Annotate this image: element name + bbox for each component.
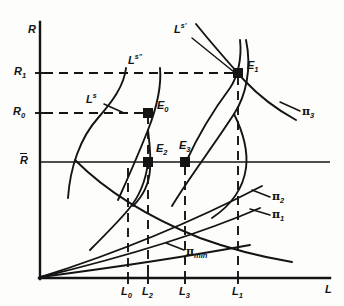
curve-label-Ls1-base: L xyxy=(174,23,181,35)
leader-pi2 xyxy=(252,190,270,197)
x-tick-label-L0-sub: 0 xyxy=(128,291,132,300)
y-tick-label-R1-main: R xyxy=(14,65,22,77)
curve-Ls1 xyxy=(172,40,248,206)
figure-canvas: R L R1 R0 R L0 L2 L3 L1 E0 E1 E2 E3 Ls L… xyxy=(0,0,344,306)
label-leader-lines xyxy=(104,38,300,250)
vertical-guides xyxy=(128,76,238,272)
curve-label-pimin-base: π xyxy=(186,245,194,258)
curve-label-pi3: π3 xyxy=(302,106,314,120)
point-label-E1: E1 xyxy=(247,60,259,74)
curve-label-pi2-sub: 2 xyxy=(280,196,284,205)
curve-label-pi3-base: π xyxy=(302,105,310,118)
point-label-E0: E0 xyxy=(157,100,169,114)
x-tick-label-L1-sub: 1 xyxy=(239,291,243,300)
curve-label-pimin: πmin xyxy=(186,246,207,260)
y-tick-label-R0-main: R xyxy=(13,105,21,117)
leader-pi3 xyxy=(280,102,300,111)
curve-Ls2 xyxy=(118,68,160,200)
overbar-rule xyxy=(20,153,27,154)
curve-pi-upper xyxy=(196,24,296,120)
marker-E1 xyxy=(233,68,243,78)
curve-pi-2-ray xyxy=(41,186,262,277)
curve-label-pimin-sub: min xyxy=(194,251,207,260)
y-tick-label-Rbar: R xyxy=(20,155,28,166)
y-tick-label-R1-sub: 1 xyxy=(22,71,26,80)
marker-E3 xyxy=(180,157,190,167)
y-tick-label-R0-sub: 0 xyxy=(21,111,25,120)
curve-label-Ls2-base: L xyxy=(128,54,135,66)
curve-label-Ls: Ls xyxy=(86,92,97,105)
x-tick-label-L2-sub: 2 xyxy=(149,291,153,300)
point-label-E2-sub: 2 xyxy=(163,148,167,157)
x-tick-label-L3: L3 xyxy=(179,286,190,300)
x-tick-label-L2: L2 xyxy=(142,286,153,300)
curve-label-Ls-prime: Ls' xyxy=(174,22,186,35)
curve-Ls xyxy=(68,68,126,198)
x-tick-label-L0: L0 xyxy=(121,286,132,300)
point-label-E3: E3 xyxy=(179,140,191,154)
curve-label-Ls-base: L xyxy=(86,93,93,105)
curve-label-pi2-base: π xyxy=(272,190,280,203)
curve-label-Ls1-sup: s' xyxy=(181,22,187,29)
y-tick-label-Rbar-main: R xyxy=(20,154,28,166)
point-label-E2: E2 xyxy=(156,143,168,157)
marker-E0 xyxy=(143,108,153,118)
y-axis-label: R xyxy=(28,24,36,35)
point-label-E1-sub: 1 xyxy=(254,65,258,74)
diagram-svg xyxy=(0,0,344,306)
curve-Ls-E2-branch xyxy=(90,162,148,250)
leader-pimin xyxy=(166,243,184,250)
curve-label-Ls2-sup: s'' xyxy=(135,53,142,60)
iso-profit-rays xyxy=(41,186,262,277)
x-axis-label: L xyxy=(325,284,332,295)
curve-Ls1-lower xyxy=(212,114,247,218)
x-tick-label-L1-main: L xyxy=(232,285,239,297)
curve-label-pi1-base: π xyxy=(272,208,280,221)
curve-label-Ls-double-prime: Ls'' xyxy=(128,53,142,66)
x-tick-label-L3-sub: 3 xyxy=(186,291,190,300)
point-label-E0-sub: 0 xyxy=(164,105,168,114)
curve-label-pi1-sub: 1 xyxy=(280,214,284,223)
x-tick-label-L2-main: L xyxy=(142,285,149,297)
point-label-E3-sub: 3 xyxy=(186,145,190,154)
curve-pi-3-main xyxy=(75,160,292,262)
marker-E2 xyxy=(143,157,153,167)
x-tick-label-L1: L1 xyxy=(232,286,243,300)
curve-label-Ls-sup: s xyxy=(93,92,97,99)
y-tick-label-R1: R1 xyxy=(14,66,26,80)
y-tick-label-Rbar-wrap: R xyxy=(20,155,28,166)
curve-label-pi1: π1 xyxy=(272,209,284,223)
x-tick-label-L3-main: L xyxy=(179,285,186,297)
curve-label-pi2: π2 xyxy=(272,191,284,205)
curve-label-pi3-sub: 3 xyxy=(310,111,314,120)
y-tick-label-R0: R0 xyxy=(13,106,25,120)
x-tick-label-L0-main: L xyxy=(121,285,128,297)
